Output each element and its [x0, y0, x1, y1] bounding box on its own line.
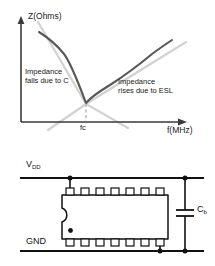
- x-axis-label: f(MHz): [167, 126, 193, 136]
- impedance-frequency-chart: Z(Ohms) f(MHz) fc Impedance falls due to…: [0, 0, 215, 140]
- ic-bottom-pins: [66, 239, 164, 246]
- x-tick-label-fc: fc: [80, 124, 86, 133]
- right-annotation-line2: rises due to ESL: [118, 87, 173, 96]
- vdd-cap-junction-dot: [183, 176, 188, 181]
- bypass-capacitor-label-main: C: [197, 204, 204, 214]
- gnd-cap-junction-dot: [183, 249, 188, 254]
- right-annotation: Impedance rises due to ESL: [118, 78, 173, 95]
- left-annotation: Impedance falls due to C: [25, 68, 69, 85]
- bypass-capacitor-label-sub: b: [204, 209, 207, 215]
- y-axis-label: Z(Ohms): [28, 12, 62, 22]
- y-axis-arrow: [18, 16, 25, 24]
- bypass-capacitor-label: Cb: [197, 204, 207, 214]
- vdd-ic-junction-dot: [68, 176, 73, 181]
- gnd-ic-junction-dot: [158, 249, 163, 254]
- ic-top-pins: [66, 188, 164, 195]
- vdd-rail-label-sub: DD: [32, 164, 41, 170]
- left-annotation-line2: falls due to C: [25, 77, 69, 86]
- figure-root: Z(Ohms) f(MHz) fc Impedance falls due to…: [0, 0, 215, 266]
- pin1-dot-icon: [68, 228, 73, 233]
- gnd-rail-label: GND: [26, 236, 46, 246]
- bypass-capacitor-schematic: VDD GND Cb: [0, 140, 215, 266]
- ic-body-outline: [62, 195, 168, 239]
- vdd-rail-label: VDD: [26, 159, 41, 169]
